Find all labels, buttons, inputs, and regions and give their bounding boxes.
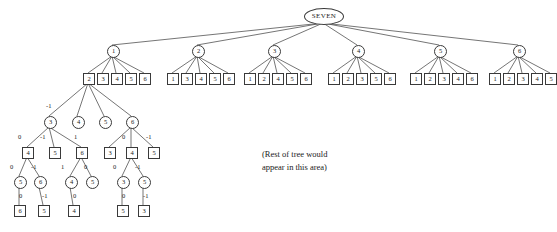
level7-node[interactable]: 5 [38,205,50,217]
level7-node[interactable]: 4 [68,205,80,217]
level3-node[interactable]: 5 [545,73,557,85]
level3-node[interactable]: 2 [503,73,515,85]
level6-node[interactable]: 6 [34,176,47,189]
edge-label: 0 [113,163,116,170]
level3-node[interactable]: 4 [452,73,464,85]
level5-node[interactable]: 3 [104,147,116,159]
edge-label: -1 [40,133,45,140]
root-edges [112,23,518,45]
level3-node[interactable]: 3 [438,73,450,85]
edge-label: 0 [122,133,125,140]
level6-node[interactable]: 5 [138,176,151,189]
level3-node[interactable]: 4 [195,73,207,85]
level2-node-6[interactable]: 6 [513,45,526,58]
level4-node[interactable]: 4 [72,116,85,129]
level7-node[interactable]: 6 [14,205,26,217]
edge-label: -1 [135,163,140,170]
level3-node[interactable]: 3 [517,73,529,85]
level3-node[interactable]: 3 [181,73,193,85]
level3-node[interactable]: 5 [370,73,382,85]
level3-node[interactable]: 3 [356,73,368,85]
level5-node[interactable]: 6 [76,147,88,159]
level4-node[interactable]: 5 [99,116,112,129]
level6-node[interactable]: 3 [117,176,130,189]
level6-node[interactable]: 5 [86,176,99,189]
level3-node[interactable]: 6 [139,73,151,85]
level3-node[interactable]: 6 [223,73,235,85]
level3-node[interactable]: 4 [531,73,543,85]
level7-node[interactable]: 3 [138,205,150,217]
level2-node-5[interactable]: 5 [434,45,447,58]
edge-label: 0 [18,133,21,140]
edge-label: 0 [10,163,13,170]
level5-node[interactable]: 4 [22,147,34,159]
level2-node-4[interactable]: 4 [352,45,365,58]
level3-node[interactable]: 5 [286,73,298,85]
edge-label: -1 [46,102,51,109]
level3-node[interactable]: 1 [328,73,340,85]
level3-node[interactable]: 3 [97,73,109,85]
level5-node[interactable]: 5 [49,147,61,159]
level2-node-1[interactable]: 1 [107,45,120,58]
root-node[interactable]: SEVEN [304,8,344,25]
level3-node[interactable]: 2 [342,73,354,85]
level3-node[interactable]: 1 [410,73,422,85]
edge-label: 0 [73,192,76,199]
edge-label: -1 [31,163,36,170]
edge-label: 0 [122,192,125,199]
edge-label: 1 [61,163,64,170]
level2-node-3[interactable]: 3 [268,45,281,58]
level3-node[interactable]: 2 [83,73,95,85]
level4-node[interactable]: 3 [44,116,57,129]
level3-node[interactable]: 2 [424,73,436,85]
rest-of-tree-note-line1: (Rest of tree would [262,148,327,160]
level3-node[interactable]: 1 [244,73,256,85]
level3-node[interactable]: 6 [384,73,396,85]
level3-node[interactable]: 2 [258,73,270,85]
rest-of-tree-note-line2: appear in this area) [262,161,327,173]
level3-node[interactable]: 6 [466,73,478,85]
level6-node[interactable]: 4 [65,176,78,189]
edge-label: -1 [146,133,151,140]
edge-label: -1 [42,192,47,199]
level5-node[interactable]: 5 [148,147,160,159]
level3-node[interactable]: 4 [111,73,123,85]
level3-node[interactable]: 5 [209,73,221,85]
level6-node[interactable]: 5 [14,176,27,189]
level2-node-2[interactable]: 2 [192,45,205,58]
level4-node[interactable]: 6 [126,116,139,129]
level2-edges [88,56,550,73]
edge-label: 1 [74,133,77,140]
level5-node[interactable]: 4 [126,147,138,159]
level3-node[interactable]: 6 [300,73,312,85]
edge-label: 0 [84,163,87,170]
level3-node[interactable]: 1 [167,73,179,85]
edge-label: -1 [143,192,148,199]
level3-node[interactable]: 4 [272,73,284,85]
level3-node[interactable]: 5 [125,73,137,85]
edge-label: 0 [19,192,22,199]
level3-node[interactable]: 1 [489,73,501,85]
level7-node[interactable]: 5 [117,205,129,217]
